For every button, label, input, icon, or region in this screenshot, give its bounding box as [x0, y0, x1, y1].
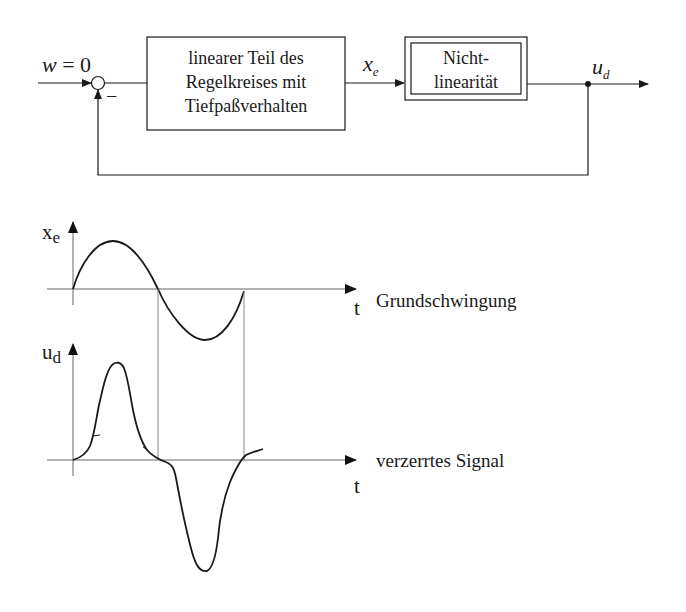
nonlinear-block-line-2: linearität: [411, 70, 521, 94]
reference-value: 0: [80, 52, 91, 77]
error-signal-base: x: [363, 51, 373, 76]
output-signal-label: ud: [592, 56, 610, 78]
linear-block-line-1: linearer Teil des: [147, 46, 345, 70]
linear-block-line-3: Tiefpaßverhalten: [147, 94, 345, 118]
top-y-label-base: x: [42, 220, 53, 244]
reference-op: =: [57, 52, 80, 77]
reference-var: w: [42, 52, 57, 77]
diagram-canvas: w = 0 − linearer Teil des Regelkreises m…: [0, 0, 686, 612]
nonlinear-block-text: Nicht- linearität: [411, 46, 521, 94]
summing-minus-sign: −: [106, 86, 117, 106]
plot-top: [47, 222, 356, 460]
distorted-signal-curve: [73, 363, 263, 572]
linear-block-text: linearer Teil des Regelkreises mit Tiefp…: [147, 46, 345, 118]
top-y-axis-label: xe: [42, 222, 60, 243]
bottom-t-axis-label: t: [354, 476, 360, 497]
summing-junction: [92, 77, 105, 90]
bottom-y-axis-label: ud: [42, 342, 61, 363]
top-t-axis-label: t: [354, 298, 360, 319]
top-y-label-sub: e: [53, 228, 61, 247]
reference-input-label: w = 0: [42, 54, 91, 76]
error-signal-label: xe: [363, 53, 379, 75]
bottom-y-label-sub: d: [53, 348, 62, 367]
bottom-y-label-base: u: [42, 340, 53, 364]
output-signal-sub: d: [603, 67, 610, 82]
output-signal-base: u: [592, 54, 603, 79]
linear-block-line-2: Regelkreises mit: [147, 70, 345, 94]
plot-bottom: [47, 344, 356, 571]
top-plot-caption: Grundschwingung: [376, 291, 516, 310]
error-signal-sub: e: [373, 64, 379, 79]
bottom-plot-caption: verzerrtes Signal: [376, 451, 504, 470]
nonlinear-block-line-1: Nicht-: [411, 46, 521, 70]
